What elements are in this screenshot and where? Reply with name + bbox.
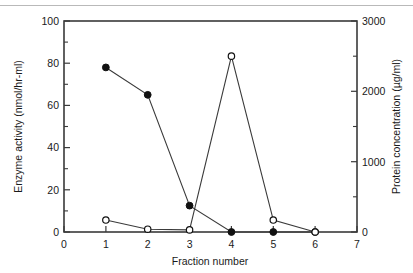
data-point-marker [186,227,192,233]
right-tick-label: 1000 [362,156,386,168]
axis-frame [64,21,357,232]
x-tick-label: 1 [103,238,109,250]
x-tick-label: 4 [228,238,234,250]
x-tick-label: 2 [145,238,151,250]
data-point-marker [270,217,276,223]
data-point-marker [103,217,109,223]
right-tick-label: 2000 [362,85,386,97]
chart-plot-area: 0 20 40 60 80 100 0 1000 2000 3000 0 1 2… [0,0,413,273]
data-point-marker [270,229,277,236]
x-tick-label: 0 [61,238,67,250]
right-axis-tick-labels: 0 1000 2000 3000 [362,15,386,238]
x-tick-label: 5 [270,238,276,250]
series-line-2 [106,56,315,232]
series-line-1 [106,67,315,232]
right-tick-label: 0 [362,226,368,238]
x-tick-label: 3 [187,238,193,250]
y-axis-title: Enzyme activity (nmol/hr-ml) [12,60,24,192]
data-point-marker [102,64,109,71]
right-tick-label: 3000 [362,15,386,27]
data-point-marker [228,229,235,236]
left-axis-tick-labels: 0 20 40 60 80 100 [41,15,59,238]
left-tick-label: 40 [47,141,59,153]
data-point-marker [145,226,151,232]
left-tick-label: 100 [41,15,59,27]
x-axis-title: Fraction number [172,255,249,267]
data-point-marker [312,229,318,235]
chart-figure: 0 20 40 60 80 100 0 1000 2000 3000 0 1 2… [0,0,413,273]
x-axis-tick-labels: 0 1 2 3 4 5 6 7 [61,238,360,250]
left-tick-label: 60 [47,99,59,111]
x-tick-label: 7 [354,238,360,250]
left-tick-label: 80 [47,57,59,69]
left-tick-label: 0 [53,226,59,238]
y2-axis-title: Protein concentration (µg/ml) [390,59,402,194]
data-point-marker [186,202,193,209]
data-point-marker [144,91,151,98]
x-tick-label: 6 [312,238,318,250]
series-layer [102,53,318,235]
data-point-marker [228,53,234,59]
left-tick-label: 20 [47,184,59,196]
